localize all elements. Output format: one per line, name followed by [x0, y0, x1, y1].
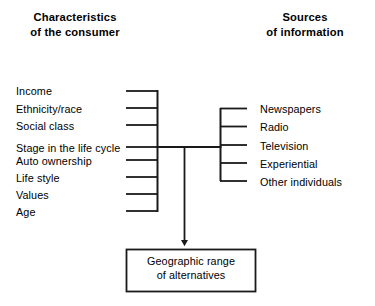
right-item-radio: Radio	[260, 121, 289, 133]
right-group-heading: Sources of information	[232, 10, 375, 39]
left-item-ethnicity-race: Ethnicity/race	[16, 103, 82, 115]
left-item-income: Income	[16, 85, 52, 97]
right-item-newspapers: Newspapers	[260, 103, 321, 115]
right-item-experiential: Experiential	[260, 158, 318, 170]
diagram-canvas: Characteristics of the consumer Sources …	[0, 0, 375, 306]
left-group-heading-line2: of the consumer	[0, 25, 150, 40]
diagram-text-layer: Characteristics of the consumer Sources …	[0, 0, 375, 306]
right-item-other-individuals: Other individuals	[260, 176, 342, 188]
right-group-heading-line2: of information	[232, 25, 375, 40]
left-item-values: Values	[16, 189, 49, 201]
outcome-box-label-line1: Geographic range	[126, 255, 256, 269]
left-item-life-style: Life style	[16, 172, 60, 184]
right-item-television: Television	[260, 140, 308, 152]
left-item-stage-in-the-life-cycle: Stage in the life cycle	[16, 142, 120, 154]
outcome-box-label-line2: of alternatives	[126, 269, 256, 283]
right-group-heading-line1: Sources	[232, 10, 375, 25]
left-item-age: Age	[16, 206, 36, 218]
outcome-box-label: Geographic range of alternatives	[126, 255, 256, 282]
left-group-heading: Characteristics of the consumer	[0, 10, 150, 39]
left-group-heading-line1: Characteristics	[0, 10, 150, 25]
left-item-auto-ownership: Auto ownership	[16, 155, 92, 167]
left-item-social-class: Social class	[16, 120, 74, 132]
